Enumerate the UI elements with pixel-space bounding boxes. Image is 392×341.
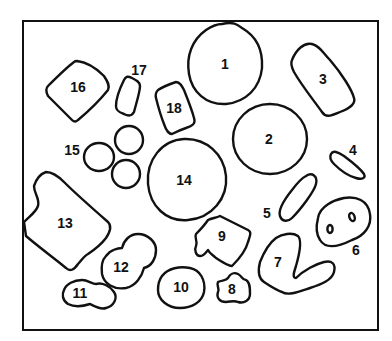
label-5: 5 <box>263 205 271 221</box>
label-12: 12 <box>113 259 129 275</box>
label-6: 6 <box>352 242 360 258</box>
label-16: 16 <box>70 79 86 95</box>
label-9: 9 <box>218 228 226 244</box>
shape-15-circle-left <box>84 143 114 171</box>
shape-15-circle-top <box>115 126 143 154</box>
label-10: 10 <box>173 279 189 295</box>
label-8: 8 <box>228 281 236 297</box>
shape-12 <box>102 234 156 288</box>
label-4: 4 <box>349 142 357 158</box>
shape-17 <box>116 77 140 116</box>
label-13: 13 <box>57 215 73 231</box>
label-7: 7 <box>274 254 282 270</box>
shape-6 <box>317 198 371 247</box>
shape-6-hole-2 <box>348 212 356 222</box>
label-18: 18 <box>166 100 182 116</box>
label-3: 3 <box>319 71 327 87</box>
label-2: 2 <box>265 131 273 147</box>
label-17: 17 <box>131 62 147 78</box>
shape-5 <box>280 174 317 220</box>
label-11: 11 <box>73 285 88 301</box>
shape-15-circle-bottom <box>112 160 140 188</box>
shapes-diagram: 1 2 3 4 5 6 7 8 9 10 11 12 13 14 15 16 1… <box>0 0 392 341</box>
label-14: 14 <box>176 172 192 188</box>
label-1: 1 <box>221 56 229 72</box>
shape-6-hole-1 <box>327 225 332 233</box>
diagram-frame <box>23 21 378 330</box>
label-15: 15 <box>64 142 80 158</box>
shape-4 <box>330 152 364 179</box>
